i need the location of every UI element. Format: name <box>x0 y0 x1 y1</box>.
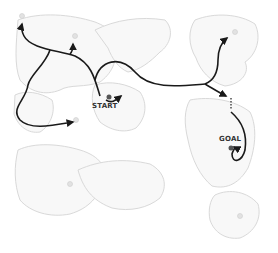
land-southeast <box>209 192 259 239</box>
marker-north <box>73 34 78 39</box>
start-marker <box>107 95 112 100</box>
start-label: START <box>92 102 118 110</box>
land-northeast <box>190 15 258 86</box>
land-masses <box>14 15 259 238</box>
marker-southeast <box>238 214 243 219</box>
goal-marker <box>229 146 234 151</box>
marker-southwest <box>74 118 79 123</box>
marker-northwest <box>20 14 25 19</box>
marker-northeast <box>233 30 238 35</box>
marker-south-center <box>68 182 73 187</box>
route-map <box>0 0 278 253</box>
goal-label: GOAL <box>219 135 241 143</box>
